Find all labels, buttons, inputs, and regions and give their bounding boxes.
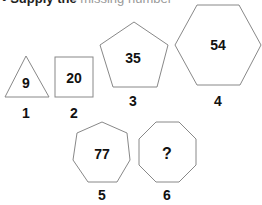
shape-value-4: 54 <box>210 37 226 53</box>
shape-value-6: ? <box>162 145 172 162</box>
shape-label-5: 5 <box>98 187 106 203</box>
shape-label-2: 2 <box>70 105 78 121</box>
shapes-figure: 9 20 35 54 77 ? 1 2 3 4 5 6 <box>0 0 262 205</box>
shape-value-1: 9 <box>22 75 30 91</box>
shape-label-4: 4 <box>214 93 222 109</box>
shape-label-1: 1 <box>22 105 30 121</box>
shape-value-5: 77 <box>94 146 110 162</box>
shape-label-6: 6 <box>163 187 171 203</box>
shape-value-2: 20 <box>66 70 82 86</box>
shape-value-3: 35 <box>125 50 141 66</box>
shape-label-3: 3 <box>129 93 137 109</box>
